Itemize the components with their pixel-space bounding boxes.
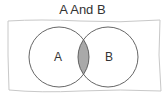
set-a-label: A bbox=[54, 50, 62, 64]
venn-diagram: A B bbox=[0, 0, 165, 98]
set-b-label: B bbox=[105, 50, 113, 64]
